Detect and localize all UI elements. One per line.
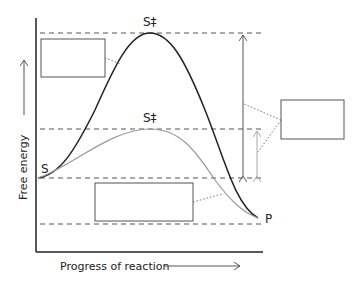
blank-label-box-upper-left[interactable] — [41, 39, 105, 77]
product-label: P — [265, 212, 272, 226]
transition-state-label-catalyzed: S‡ — [143, 111, 157, 125]
substrate-label: S — [41, 162, 49, 176]
blank-label-box-bottom[interactable] — [95, 183, 193, 221]
energy-diagram: Free energy Progress of reaction S‡ S‡ S… — [0, 0, 360, 283]
leader-right-box-to-short-arrow — [258, 120, 281, 152]
blank-label-box-right[interactable] — [281, 100, 344, 139]
leader-lines — [105, 58, 281, 202]
x-axis-label: Progress of reaction — [60, 260, 169, 273]
leader-bottom-box — [193, 194, 222, 202]
leader-right-box-to-tall-arrow — [244, 104, 281, 120]
transition-state-label-uncatalyzed: S‡ — [143, 15, 157, 29]
y-axis-label: Free energy — [17, 134, 30, 200]
